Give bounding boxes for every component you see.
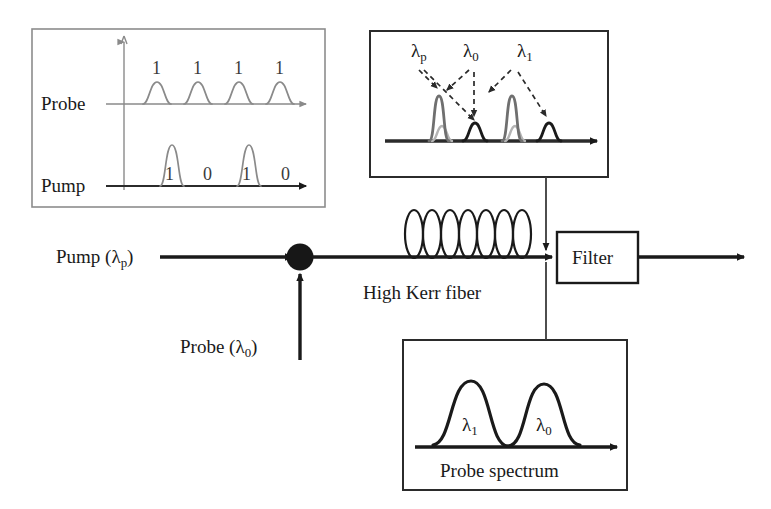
lambda-subscript: 1	[471, 423, 477, 438]
output-spectrum-frame	[370, 31, 608, 177]
probe-spectrum-label-lambda-0: λ0	[536, 415, 552, 438]
pump-input-label: Pump (λp)	[56, 247, 133, 270]
lambda-glyph: λ	[517, 40, 526, 61]
lambda-subscript: 1	[526, 49, 532, 64]
probe-spectrum-caption: Probe spectrum	[440, 461, 559, 480]
pump-label-text: Pump (λ	[56, 246, 121, 267]
lambda-subscript: 0	[545, 423, 551, 438]
probe-spectrum-label-lambda-1: λ1	[462, 415, 478, 438]
lambda-glyph: λ	[463, 40, 472, 61]
output-label-lambda-1: λ1	[517, 41, 533, 64]
probe-bit-0: 1	[152, 59, 161, 77]
pump-label-tail: )	[127, 246, 133, 267]
lambda-glyph: λ	[411, 40, 420, 61]
probe-bit-3: 1	[275, 59, 284, 77]
probe-bit-2: 1	[234, 59, 243, 77]
pump-bit-0: 1	[165, 165, 174, 183]
probe-bit-1: 1	[193, 59, 202, 77]
kerr-fiber-label: High Kerr fiber	[363, 283, 481, 302]
coupler-node	[287, 244, 314, 271]
fiber-coil	[405, 210, 531, 258]
pump-bit-1: 0	[203, 165, 212, 183]
probe-label-tail: )	[251, 336, 257, 357]
pump-bit-3: 0	[281, 165, 290, 183]
pump-row-label: Pump	[41, 176, 85, 195]
probe-input-label: Probe (λ0)	[180, 337, 257, 360]
probe-row-label: Probe	[41, 94, 85, 113]
lambda-subscript: p	[420, 49, 426, 64]
lambda-glyph: λ	[462, 414, 471, 435]
figure-canvas: Probe Pump 1 1 1 1 1 0 1 0 λp λ0 λ1 Pump…	[0, 0, 771, 509]
pump-bit-2: 1	[242, 165, 251, 183]
filter-label[interactable]: Filter	[572, 248, 613, 267]
output-label-lambda-p: λp	[411, 41, 427, 64]
lambda-subscript: 0	[472, 49, 478, 64]
lambda-glyph: λ	[536, 414, 545, 435]
output-label-lambda-0: λ0	[463, 41, 479, 64]
probe-label-text: Probe (λ	[180, 336, 245, 357]
